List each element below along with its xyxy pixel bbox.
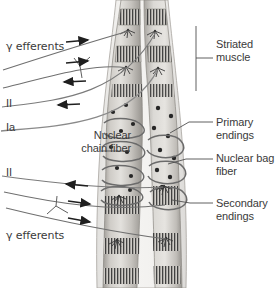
label-afferent-ii-top: II bbox=[6, 97, 12, 110]
label-gamma-efferents-bottom: γ efferents bbox=[6, 230, 64, 243]
gamma-branch-stem-bottom bbox=[56, 196, 57, 206]
gamma-branch-stem-top bbox=[80, 66, 82, 78]
bracket-striated-muscle bbox=[196, 26, 213, 91]
label-gamma-efferents-top: γ efferents bbox=[6, 41, 64, 54]
arrow-afferent-ia bbox=[58, 104, 80, 105]
label-primary-endings: Primary endings bbox=[216, 116, 254, 141]
gamma-branch-bottom bbox=[47, 206, 68, 214]
arrow-efferent-4 bbox=[68, 218, 90, 222]
label-striated-muscle: Striated muscle bbox=[216, 38, 253, 63]
label-nuclear-bag-fiber: Nuclear bag fiber bbox=[216, 152, 274, 177]
arrow-afferent-ii-bottom bbox=[66, 184, 88, 186]
arrow-afferent-ii-top bbox=[64, 81, 86, 82]
arrow-efferent-1 bbox=[66, 40, 88, 42]
label-nuclear-chain-fiber: Nuclear chain fiber bbox=[41, 129, 131, 154]
arrow-efferent-2 bbox=[66, 61, 88, 63]
figure-canvas: γ efferents II Ia Nuclear chain fiber II… bbox=[0, 0, 279, 288]
label-afferent-ii-bottom: II bbox=[6, 166, 12, 179]
label-secondary-endings: Secondary endings bbox=[216, 197, 268, 222]
label-afferent-ia: Ia bbox=[6, 121, 15, 134]
